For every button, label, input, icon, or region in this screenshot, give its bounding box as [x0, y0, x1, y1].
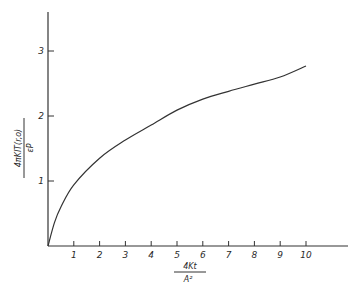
- x-axis-label: 4Kt A²: [174, 262, 206, 284]
- x-tick-label: 7: [226, 250, 232, 260]
- x-tick-label: 8: [252, 250, 258, 260]
- data-curve: [48, 66, 306, 246]
- x-tick-label: 1: [71, 250, 77, 260]
- x-tick-label: 6: [200, 250, 206, 260]
- x-tick-label: 9: [277, 250, 283, 260]
- x-ticks: 12345678910: [71, 241, 312, 260]
- x-label-denominator: A²: [183, 275, 193, 284]
- y-ticks: 123: [38, 46, 54, 186]
- x-tick-label: 2: [97, 250, 103, 260]
- y-axis-label: 4πKlT(r,o) εP: [14, 118, 35, 178]
- y-tick-label: 3: [38, 46, 44, 56]
- chart: 12345678910 123 4πKlT(r,o) εP 4Kt A²: [0, 0, 359, 297]
- x-tick-label: 10: [300, 250, 312, 260]
- y-tick-label: 2: [38, 111, 44, 121]
- x-label-numerator: 4Kt: [183, 262, 197, 271]
- y-tick-label: 1: [38, 176, 44, 186]
- x-tick-label: 5: [174, 250, 180, 260]
- x-tick-label: 4: [148, 250, 154, 260]
- x-tick-label: 3: [123, 250, 129, 260]
- y-label-numerator: 4πKlT(r,o): [14, 129, 23, 168]
- y-label-denominator: εP: [26, 143, 35, 152]
